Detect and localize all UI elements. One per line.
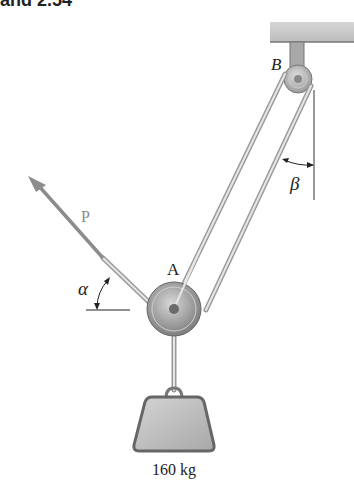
alpha-arrow-icon	[94, 277, 110, 310]
force-label: P	[81, 208, 90, 225]
rope-segments	[103, 74, 311, 390]
weight-160kg	[134, 388, 214, 451]
mass-label: 160 kg	[152, 461, 196, 479]
pulley-a-label: A	[167, 260, 180, 279]
beta-arrow-icon	[282, 158, 314, 168]
beta-label: β	[289, 173, 300, 194]
force-arrow-p	[28, 176, 103, 258]
ceiling	[270, 22, 354, 42]
pulley-b-label: B	[271, 55, 282, 74]
pulley-diagram: β P α A B 160 kg	[0, 0, 354, 495]
pulley-a	[147, 282, 201, 336]
pulley-b	[284, 42, 312, 93]
alpha-label: α	[78, 278, 89, 299]
